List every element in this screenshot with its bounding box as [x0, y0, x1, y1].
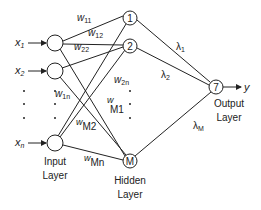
- weight-w1n: w1n: [55, 88, 70, 100]
- input-node-1: [47, 35, 63, 51]
- edge-h2-out: [137, 48, 209, 85]
- edge-hM-out: [135, 92, 211, 156]
- weight-wM2: wM2: [76, 117, 97, 132]
- weight-wM1: wM1: [107, 95, 124, 115]
- hidden-layer-nodes: [123, 11, 137, 168]
- input-node-2: [47, 63, 63, 79]
- weight-w2n: w2n: [114, 74, 129, 86]
- hidden-node-M-label: M: [126, 156, 134, 167]
- weight-w12: w12: [88, 27, 103, 39]
- lambda-2: λ2: [161, 69, 170, 81]
- weight-w22: w22: [74, 41, 89, 53]
- input-arrows: [28, 43, 46, 143]
- output-layer-label-1: Output: [214, 98, 244, 109]
- weight-wMn: wMn: [84, 153, 104, 168]
- lambda-labels: λ1 λ2 λM: [161, 41, 204, 132]
- input-label-x2: x2: [14, 64, 25, 77]
- lambda-1: λ1: [176, 41, 185, 53]
- input-label-x1: x1: [14, 36, 25, 49]
- input-label-xn: xn: [14, 136, 25, 149]
- edge-h1-out: [137, 20, 210, 82]
- hidden-node-1-label: 1: [127, 13, 133, 24]
- input-layer-label-1: Input: [44, 156, 66, 167]
- output-label-y: y: [243, 81, 251, 93]
- hidden-output-connections: [135, 20, 211, 156]
- output-layer-label-2: Layer: [216, 112, 242, 123]
- output-node-label: 7: [213, 82, 219, 93]
- input-labels: x1 x2 xn: [14, 36, 25, 149]
- hidden-layer-label-2: Layer: [117, 189, 143, 200]
- lambda-M: λM: [193, 120, 204, 132]
- weight-w11: w11: [77, 12, 92, 24]
- neural-network-diagram: 1 2 M 7 x1 x2 xn y w11 w12 w22 w1n w2n w…: [0, 0, 261, 210]
- input-node-n: [47, 135, 63, 151]
- hidden-node-2-label: 2: [127, 41, 133, 52]
- hidden-layer-label-1: Hidden: [114, 175, 146, 186]
- input-layer-label-2: Layer: [42, 170, 68, 181]
